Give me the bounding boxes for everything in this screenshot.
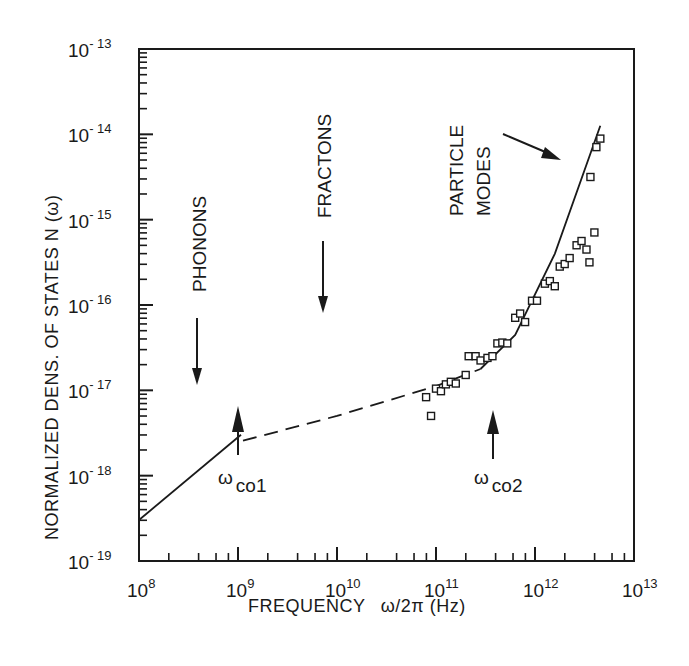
fractons-arrow-icon: [318, 241, 328, 313]
data-point-square: [587, 174, 594, 181]
density-of-states-chart: 1081091010101110121013 10- 1310- 1410- 1…: [0, 0, 689, 666]
data-point-square: [465, 353, 472, 360]
y-tick-label: 10- 14: [68, 121, 112, 146]
y-tick-label: 10- 13: [68, 36, 112, 61]
data-point-square: [452, 380, 459, 387]
data-point-square: [593, 144, 600, 151]
omega-co1-arrow-icon: [232, 406, 244, 455]
x-tick-label: 1012: [523, 576, 559, 601]
fit-line: [243, 369, 481, 441]
x-axis-title: FREQUENCY ω/2π (Hz): [248, 596, 466, 616]
data-point-square: [423, 394, 430, 401]
particle-modes-arrow-icon: [503, 134, 561, 160]
omega-symbol: ω: [474, 467, 489, 488]
y-tick-label: 10- 16: [68, 292, 112, 317]
data-point-square: [578, 238, 585, 245]
data-point-square: [477, 357, 484, 364]
particle-label: PARTICLE: [446, 125, 467, 216]
x-tick-label: 1013: [622, 576, 658, 601]
data-point-square: [437, 388, 444, 395]
data-point-square: [586, 259, 593, 266]
phonons-arrow-icon: [192, 318, 202, 385]
x-axis-title-var: ω/2π (Hz): [381, 596, 466, 616]
y-tick-label: 10- 18: [68, 463, 112, 488]
omega-co2-label: ωco2: [474, 467, 522, 496]
y-axis-tick-labels: 10- 1310- 1410- 1510- 1610- 1710- 1810- …: [68, 36, 112, 573]
data-point-square: [462, 371, 469, 378]
y-axis-ticks: [139, 53, 153, 561]
data-point-square: [551, 283, 558, 290]
data-point-square: [583, 246, 590, 253]
y-tick-label: 10- 17: [68, 377, 112, 402]
y-tick-label: 10- 19: [68, 548, 112, 573]
omega-symbol: ω: [218, 467, 233, 488]
y-axis-title: NORMALIZED DENS. OF STATES N (ω): [42, 195, 62, 540]
plot-frame: [139, 49, 634, 561]
phonons-label: PHONONS: [189, 196, 210, 292]
co2-subscript: co2: [492, 475, 523, 496]
modes-label: MODES: [473, 146, 494, 216]
data-point-square: [597, 135, 604, 142]
y-tick-label: 10- 15: [68, 207, 112, 232]
omega-co2-arrow-icon: [487, 410, 499, 459]
data-point-square: [533, 297, 540, 304]
data-point-square: [566, 255, 573, 262]
omega-co1-label: ωco1: [218, 467, 266, 496]
co1-subscript: co1: [236, 475, 267, 496]
data-point-square: [517, 310, 524, 317]
x-axis-title-main: FREQUENCY: [248, 596, 365, 616]
data-point-square: [428, 412, 435, 419]
x-axis-ticks: [139, 547, 624, 561]
data-point-square: [489, 353, 496, 360]
data-point-square: [591, 229, 598, 236]
data-point-square: [522, 319, 529, 326]
x-tick-label: 108: [127, 576, 155, 601]
fit-lines: [139, 126, 600, 520]
data-point-square: [504, 340, 511, 347]
fractons-label: FRACTONS: [314, 114, 335, 218]
